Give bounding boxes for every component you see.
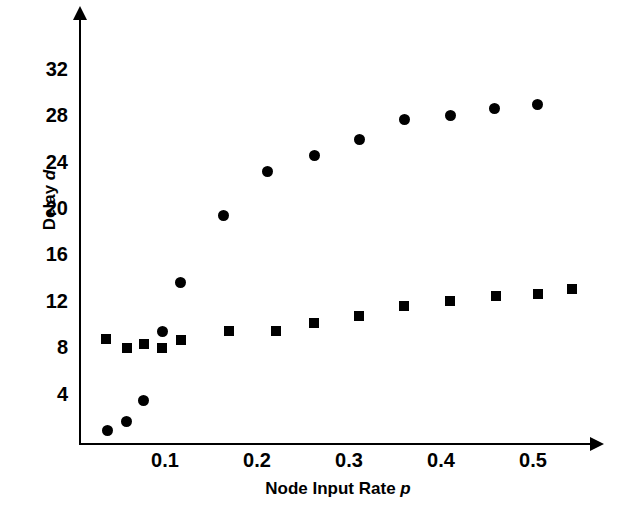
data-point-circles-11: [489, 103, 500, 114]
data-point-squares-8: [354, 311, 364, 321]
x-tick-label-0.1: 0.1: [135, 450, 195, 470]
y-tick-text: 4: [57, 384, 68, 404]
x-tick-label-0.4: 0.4: [411, 450, 471, 470]
data-point-squares-2: [139, 339, 149, 349]
data-point-squares-6: [271, 326, 281, 336]
y-axis-title: Delay d: [40, 140, 60, 260]
data-point-circles-5: [218, 210, 229, 221]
y-axis-title-symbol: d: [40, 170, 59, 180]
x-tick-label-0.5: 0.5: [503, 450, 563, 470]
x-axis-title-symbol: p: [400, 479, 410, 498]
data-point-circles-0: [102, 425, 113, 436]
data-point-squares-12: [533, 289, 543, 299]
data-point-circles-12: [532, 99, 543, 110]
data-point-circles-8: [354, 134, 365, 145]
x-axis-line: [79, 443, 597, 445]
data-point-circles-3: [157, 326, 168, 337]
data-point-circles-10: [445, 110, 456, 121]
scatter-chart: 48121620242832 0.10.20.30.40.5 Delay d N…: [0, 0, 620, 512]
data-point-squares-3: [157, 343, 167, 353]
data-point-circles-2: [138, 395, 149, 406]
data-point-squares-4: [176, 335, 186, 345]
data-point-circles-4: [175, 277, 186, 288]
data-point-circles-6: [262, 166, 273, 177]
data-point-squares-11: [491, 291, 501, 301]
data-point-squares-13: [567, 284, 577, 294]
x-axis-title: Node Input Rate p: [79, 479, 597, 499]
data-point-squares-5: [224, 326, 234, 336]
data-point-circles-7: [309, 150, 320, 161]
data-point-squares-9: [399, 301, 409, 311]
x-tick-label-0.3: 0.3: [319, 450, 379, 470]
data-point-circles-9: [399, 114, 410, 125]
data-point-squares-0: [101, 334, 111, 344]
x-tick-label-0.2: 0.2: [227, 450, 287, 470]
y-tick-text: 32: [46, 59, 68, 79]
y-tick-text: 28: [46, 105, 68, 125]
data-point-squares-7: [309, 318, 319, 328]
y-axis-line: [79, 18, 81, 445]
x-axis-title-text: Node Input Rate: [265, 479, 395, 498]
y-tick-text: 8: [57, 337, 68, 357]
data-point-circles-1: [121, 416, 132, 427]
data-point-squares-1: [122, 343, 132, 353]
data-point-squares-10: [445, 296, 455, 306]
y-tick-text: 12: [46, 291, 68, 311]
y-axis-title-text: Delay: [40, 185, 59, 230]
